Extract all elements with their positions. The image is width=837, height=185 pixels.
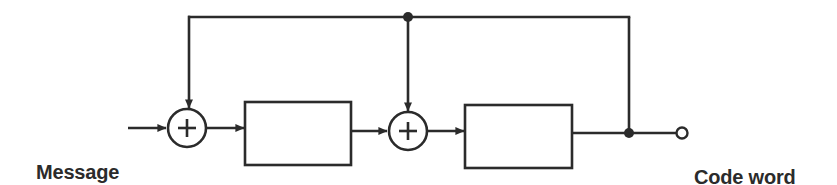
block-1 (245, 102, 351, 165)
output-label: Code word out (694, 120, 796, 185)
block-2 (465, 105, 572, 168)
output-label-line1: Code word (694, 166, 796, 185)
input-label-line1: Message (36, 161, 119, 184)
junction-top-tap-dot (403, 12, 413, 22)
adder-1 (168, 109, 206, 147)
junction-output-tap-dot (624, 128, 634, 138)
adder-2 (389, 112, 427, 150)
terminal-output-open-circle (677, 128, 688, 139)
input-label: Message in (36, 115, 119, 185)
encoder-block-diagram: Message in Code word out (0, 0, 837, 185)
